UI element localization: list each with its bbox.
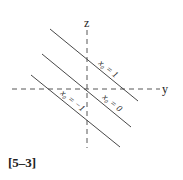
line-x0-minus1 bbox=[31, 75, 120, 147]
diagram-canvas: z y x₀ = 1 x₀ = 0 x₀ = −1 [5–3] bbox=[0, 0, 183, 180]
figure-caption: [5–3] bbox=[8, 155, 36, 170]
label-x0-0: x₀ = 0 bbox=[100, 91, 125, 114]
line-x0-0 bbox=[42, 54, 131, 127]
z-axis-label: z bbox=[84, 16, 89, 30]
y-axis-label: y bbox=[162, 82, 168, 96]
